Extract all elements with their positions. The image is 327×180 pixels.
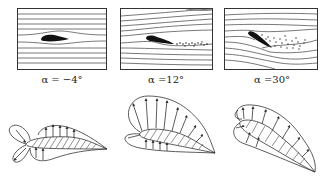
angle-label-2: α =12° [144, 74, 188, 85]
airfoil-1 [41, 35, 69, 42]
airfoil-2 [146, 36, 174, 44]
streamline-panel-1 [18, 9, 107, 70]
streamline-panel-3 [225, 9, 318, 70]
wake-dots-3 [261, 34, 305, 49]
streamline-panel-2 [121, 9, 213, 70]
figure-canvas [0, 0, 327, 180]
angle-label-1: α = −4° [38, 74, 86, 85]
pressure-diagram-1 [9, 124, 107, 162]
pressure-diagram-3 [234, 105, 316, 172]
angle-label-3: α =30° [250, 74, 294, 85]
pressure-diagram-2 [125, 96, 215, 153]
